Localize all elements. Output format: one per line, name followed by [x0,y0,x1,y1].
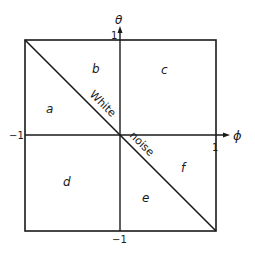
phi-min-tick: −1 [9,130,24,141]
phase-diagram: θ ϕ 1 1 −1 −1 a b c d e f White noise [0,0,255,253]
region-b-label: b [92,62,100,76]
theta-max-tick: 1 [111,30,117,41]
region-e-label: e [142,191,149,205]
phi-label: ϕ [233,128,242,143]
region-d-label: d [63,175,71,189]
phi-arrow-icon [223,133,230,138]
theta-arrow-icon [118,26,123,33]
region-a-label: a [46,102,53,116]
phi-max-tick: 1 [212,142,218,153]
noise-text: noise [127,129,157,159]
theta-min-tick: −1 [112,234,127,245]
region-f-label: f [181,161,187,175]
region-c-label: c [161,63,168,77]
theta-label: θ [115,13,123,27]
white-text: White [87,88,119,120]
